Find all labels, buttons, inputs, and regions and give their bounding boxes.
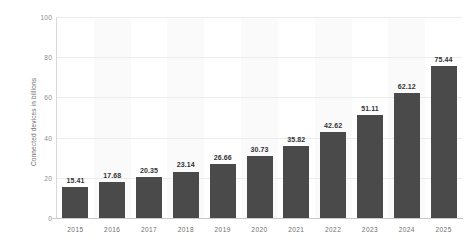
bar[interactable] [394,93,420,218]
bar-value-label: 23.14 [177,161,195,168]
bar[interactable] [210,164,236,218]
y-axis-tick-labels: 020406080100 [20,17,52,218]
y-axis-tick-label: 0 [24,215,52,222]
x-axis-tick-label: 2018 [178,226,194,233]
y-axis-tick-label: 80 [24,54,52,61]
bar[interactable] [320,132,346,218]
bar-value-label: 42.62 [324,122,342,129]
bar-value-label: 15.41 [66,177,84,184]
y-axis-tick-label: 40 [24,134,52,141]
bar[interactable] [247,156,273,218]
x-axis-tick-label: 2025 [435,226,451,233]
x-axis-tick-label: 2022 [325,226,341,233]
x-axis-line [52,218,463,219]
y-axis-tick-label: 100 [24,14,52,21]
bar-value-label: 20.35 [140,167,158,174]
x-axis-tick-label: 2021 [288,226,304,233]
x-axis-tick-label: 2024 [399,226,415,233]
bar[interactable] [99,182,125,218]
bar-value-label: 75.44 [435,56,453,63]
bar[interactable] [136,177,162,218]
bar-value-label: 17.68 [103,172,121,179]
bar-value-label: 26.66 [214,154,232,161]
gridline [57,17,462,18]
bar-value-label: 62.12 [398,83,416,90]
bar-chart: Connected devices in billions 0204060801… [0,0,475,244]
bar-value-label: 35.82 [287,136,305,143]
bar[interactable] [357,115,383,218]
y-axis-tick-label: 20 [24,174,52,181]
bar[interactable] [431,66,457,218]
plot-area [57,17,462,218]
y-axis-tick-label: 60 [24,94,52,101]
bar-value-label: 51.11 [361,105,379,112]
x-axis-tick-label: 2015 [67,226,83,233]
x-axis-tick-label: 2023 [362,226,378,233]
gridline [57,57,462,58]
bar-value-label: 30.73 [250,146,268,153]
x-axis-tick-label: 2017 [141,226,157,233]
bar[interactable] [173,172,199,219]
bar[interactable] [62,187,88,218]
x-axis-tick-label: 2020 [251,226,267,233]
x-axis-tick-label: 2019 [215,226,231,233]
x-axis-tick-label: 2016 [104,226,120,233]
bar[interactable] [283,146,309,218]
